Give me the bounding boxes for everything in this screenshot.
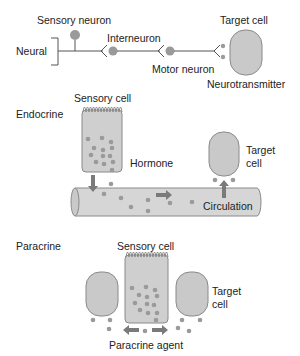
interneuron-label: Interneuron	[107, 32, 161, 44]
endocrine-section-label: Endocrine	[16, 108, 63, 120]
interneuron-icon	[109, 47, 118, 56]
paracrine-target-cell-right	[176, 272, 208, 316]
sensory-neuron-icon	[70, 30, 80, 40]
neurotransmitter-dot	[221, 44, 225, 48]
paracrine-target-cell-left	[86, 272, 118, 316]
paracrine-target-label-1: Target	[212, 285, 241, 297]
neurotransmitter-label: Neurotransmitter	[207, 78, 285, 90]
neural-target-cell-label: Target cell	[220, 14, 268, 26]
neural-target-cell	[230, 30, 262, 75]
endocrine-target-label-2: cell	[246, 157, 262, 169]
neurotransmitter-dot	[221, 55, 225, 59]
motor-neuron-icon	[166, 47, 175, 56]
diffuse-right-arrow-icon	[152, 325, 168, 335]
circulation-label: Circulation	[203, 200, 253, 212]
paracrine-section-label: Paracrine	[16, 240, 61, 252]
hormone-label: Hormone	[130, 157, 173, 169]
diffuse-left-arrow-icon	[123, 325, 139, 335]
paracrine-pathway	[86, 252, 208, 335]
endocrine-sensory-cell-label: Sensory cell	[74, 92, 131, 104]
paracrine-sensory-cell-label: Sensory cell	[117, 240, 174, 252]
sensory-neuron-label: Sensory neuron	[37, 14, 111, 26]
microvilli	[126, 252, 168, 257]
endocrine-target-cell	[209, 132, 239, 176]
endocrine-target-label-1: Target	[246, 144, 275, 156]
neural-section-label: Neural	[16, 45, 47, 57]
paracrine-agent-label: Paracrine agent	[109, 339, 183, 351]
paracrine-target-label-2: cell	[212, 298, 228, 310]
neural-bracket	[51, 38, 58, 65]
motor-neuron-label: Motor neuron	[152, 63, 214, 75]
